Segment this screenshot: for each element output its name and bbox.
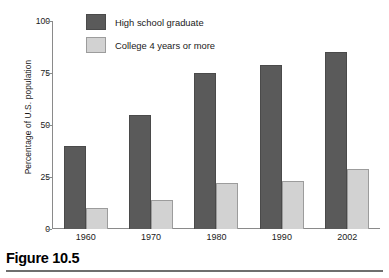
bar-high-school-graduate-1990 (260, 65, 282, 229)
legend-label-high-school-graduate: High school graduate (115, 17, 204, 28)
legend-item-high-school-graduate: High school graduate (86, 12, 215, 32)
y-tick-mark-25 (46, 177, 52, 178)
bar-group-2002 (315, 21, 380, 229)
x-tick-label-1980: 1980 (184, 232, 249, 242)
x-tick-label-1990: 1990 (249, 232, 314, 242)
figure-caption: Figure 10.5 (6, 250, 79, 266)
bar-high-school-graduate-1970 (129, 115, 151, 229)
y-tick-mark-50 (46, 125, 52, 126)
bar-college-4-years-or-more-1980 (216, 183, 238, 229)
chart-plot-area: Percentage of U.S. population 0255075100… (0, 0, 389, 246)
x-tick-label-2002: 2002 (315, 232, 380, 242)
x-tick-label-1960: 1960 (53, 232, 118, 242)
x-tick-label-1970: 1970 (118, 232, 183, 242)
legend-swatch-icon-college-4-years-or-more (86, 37, 106, 53)
y-axis-tick-labels: 0255075100 (24, 0, 50, 246)
chart-legend: High school graduate College 4 years or … (86, 12, 215, 58)
y-tick-mark-100 (46, 21, 52, 22)
legend-label-college-4-years-or-more: College 4 years or more (115, 40, 215, 51)
bar-college-4-years-or-more-1960 (86, 208, 108, 229)
bar-college-4-years-or-more-1970 (151, 200, 173, 229)
bar-high-school-graduate-1980 (194, 73, 216, 229)
legend-swatch-icon-high-school-graduate (86, 14, 106, 30)
y-tick-mark-0 (46, 229, 52, 230)
y-tick-mark-75 (46, 73, 52, 74)
bar-college-4-years-or-more-2002 (347, 169, 369, 229)
bar-group-1990 (249, 21, 314, 229)
bar-college-4-years-or-more-1990 (282, 181, 304, 229)
figure-container: Percentage of U.S. population 0255075100… (0, 0, 389, 278)
bar-high-school-graduate-1960 (64, 146, 86, 229)
x-axis-tick-labels: 19601970198019902002 (53, 232, 380, 248)
bar-high-school-graduate-2002 (325, 52, 347, 229)
caption-divider (6, 270, 383, 272)
legend-item-college-4-years-or-more: College 4 years or more (86, 35, 215, 55)
